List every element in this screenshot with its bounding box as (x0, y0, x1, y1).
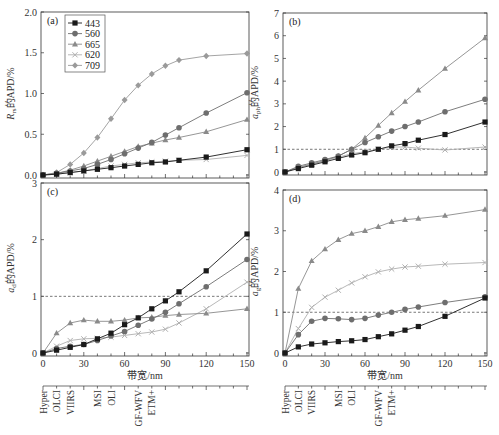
series-665 (282, 206, 488, 355)
y-tick-label: 3 (274, 225, 279, 236)
sensor-label: MSI (334, 390, 344, 407)
sensor-label: OLCI (294, 390, 304, 412)
legend-entry-560: 560 (85, 28, 100, 39)
y-tick-label: 1 (274, 144, 279, 155)
sensor-label: Hyper (39, 389, 49, 414)
x-axis-label: 带宽/nm (127, 369, 163, 381)
panel-label: (c) (47, 186, 58, 198)
x-tick-label: 60 (120, 358, 130, 369)
y-tick-label: 2 (274, 121, 279, 132)
y-axis-label: ad的APD/% (4, 243, 18, 293)
panel-d: 012340306090120150带宽/nm(d)ag的APD/%HyperO… (248, 185, 493, 427)
sensor-label: OLI (347, 390, 357, 406)
panel-a: 0.00.51.01.52.0(a)Rrs的APD/%4435606656207… (4, 7, 250, 181)
y-tick-label: 7 (274, 8, 279, 19)
legend-entry-620: 620 (85, 49, 100, 60)
y-tick-label: 0 (274, 167, 279, 178)
y-tick-label: 2 (274, 266, 279, 277)
series-443 (40, 231, 249, 355)
sensor-label: OLCI (52, 390, 62, 412)
series-665 (40, 116, 250, 177)
x-tick-label: 120 (438, 358, 453, 369)
x-tick-label: 60 (360, 358, 370, 369)
series-443 (282, 119, 487, 174)
plot-frame (283, 190, 487, 356)
legend-entry-665: 665 (85, 39, 100, 50)
panel-c: 01230306090120150带宽/nm(c)ad的APD/%HyperOL… (4, 178, 255, 427)
panel-b: 01234567(b)aph的APD/% (248, 8, 488, 178)
x-tick-label: 90 (160, 358, 170, 369)
x-tick-label: 30 (79, 358, 89, 369)
panel-label: (d) (289, 193, 301, 205)
x-tick-label: 150 (478, 358, 493, 369)
y-tick-label: 2.0 (25, 7, 38, 18)
sensor-axis: HyperOLCIVIIRSMSIOLIGF-WFVETM+ (39, 386, 250, 426)
y-tick-label: 3 (32, 178, 37, 189)
y-tick-label: 0.5 (25, 129, 38, 140)
series-620 (282, 260, 487, 356)
sensor-label: ETM+ (147, 390, 157, 415)
x-tick-label: 150 (240, 358, 255, 369)
y-tick-label: 0 (32, 348, 37, 359)
sensor-label: VIIRS (307, 390, 317, 415)
sensor-axis: HyperOLCIVIIRSMSIOLIGF-WFVETM+ (281, 386, 488, 426)
y-axis-label: Rrs的APD/% (4, 67, 18, 120)
y-tick-label: 4 (274, 76, 279, 87)
y-tick-label: 1 (274, 307, 279, 318)
y-axis-label: aph的APD/% (248, 66, 262, 119)
plot-frame (41, 183, 249, 356)
panel-label: (a) (47, 15, 58, 27)
y-tick-label: 5 (274, 53, 279, 64)
sensor-label: MSI (93, 390, 103, 407)
y-tick-label: 4 (274, 185, 279, 196)
sensor-label: GF-WFV (374, 390, 384, 427)
y-tick-label: 2 (32, 234, 37, 245)
legend: 443560665620709 (65, 15, 105, 72)
y-axis-label: ag的APD/% (248, 247, 262, 297)
sensor-label: ETM+ (387, 390, 397, 415)
sensor-label: VIIRS (66, 390, 76, 415)
x-tick-label: 0 (41, 358, 46, 369)
panel-label: (b) (289, 16, 301, 28)
plot-frame (283, 13, 487, 175)
x-axis-label: 带宽/nm (367, 369, 403, 381)
sensor-label: GF-WFV (134, 390, 144, 427)
sensor-label: OLI (107, 390, 117, 406)
y-tick-label: 1.0 (25, 88, 38, 99)
series-620 (282, 144, 487, 174)
y-tick-label: 0 (274, 348, 279, 359)
x-tick-label: 30 (320, 358, 330, 369)
y-tick-label: 3 (274, 98, 279, 109)
sensor-label: Hyper (281, 389, 291, 414)
x-tick-label: 0 (283, 358, 288, 369)
four-panel-apd-chart: 0.00.51.01.52.0(a)Rrs的APD/%4435606656207… (0, 0, 499, 435)
series-665 (282, 35, 488, 174)
y-tick-label: 6 (274, 30, 279, 41)
series-443 (282, 295, 487, 355)
series-560 (40, 257, 250, 356)
x-tick-label: 120 (199, 358, 214, 369)
y-tick-label: 1 (32, 291, 37, 302)
x-tick-label: 90 (400, 358, 410, 369)
legend-entry-709: 709 (85, 60, 100, 71)
y-tick-label: 1.5 (25, 47, 38, 58)
legend-entry-443: 443 (85, 18, 100, 29)
